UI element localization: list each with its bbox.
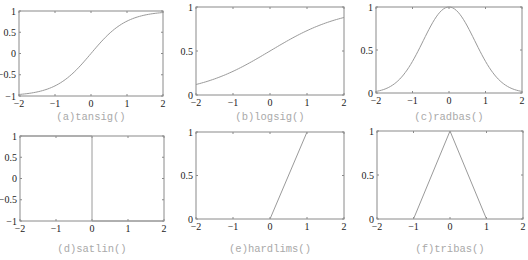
plot-area: −2−1012−1−0.500.51 bbox=[0, 130, 176, 260]
x-tick-label: 2 bbox=[520, 95, 525, 106]
caption-a: (a)tansig() bbox=[19, 111, 163, 123]
y-tick-label: 0.5 bbox=[5, 152, 18, 163]
y-tick-label: −0.5 bbox=[0, 194, 17, 205]
function-curve bbox=[196, 17, 344, 84]
function-curve bbox=[19, 13, 163, 95]
y-tick-label: 0.5 bbox=[181, 170, 194, 181]
function-curve bbox=[376, 7, 522, 91]
x-tick-label: 1 bbox=[126, 223, 131, 234]
x-tick-label: 0 bbox=[89, 98, 94, 109]
x-tick-label: 2 bbox=[342, 221, 347, 232]
y-tick-label: 0.5 bbox=[362, 170, 375, 181]
x-tick-label: 2 bbox=[521, 221, 526, 232]
y-tick-label: 0 bbox=[368, 88, 373, 99]
y-tick-label: 0 bbox=[369, 214, 374, 225]
x-tick-label: −1 bbox=[51, 223, 62, 234]
x-tick-label: 1 bbox=[483, 95, 488, 106]
y-tick-label: 1 bbox=[369, 126, 374, 137]
x-tick-label: 0 bbox=[448, 221, 453, 232]
y-tick-label: 0.5 bbox=[4, 27, 17, 38]
caption-b: (b)logsig() bbox=[196, 111, 344, 123]
function-curve bbox=[20, 136, 164, 221]
caption-d: (d)satlin() bbox=[20, 243, 164, 255]
subplot-d-satlin: −2−1012−1−0.500.51 (d)satlin() bbox=[0, 130, 176, 260]
x-tick-label: 1 bbox=[125, 98, 130, 109]
y-tick-label: 1 bbox=[188, 2, 193, 13]
subplot-f-tribas: −2−101200.51 (f)tribas() bbox=[352, 130, 528, 260]
axes-frame bbox=[196, 132, 344, 219]
function-curve bbox=[414, 131, 487, 219]
subplot-c-radbas: −2−101200.51 (c)radbas() bbox=[352, 0, 528, 130]
subplot-e-hardlims: −2−101200.51 (e)hardlims() bbox=[176, 130, 352, 260]
axes-frame bbox=[376, 7, 522, 93]
x-tick-label: 2 bbox=[161, 98, 166, 109]
y-tick-label: 1 bbox=[368, 2, 373, 13]
y-tick-label: 1 bbox=[11, 6, 16, 17]
caption-f: (f)tribas() bbox=[377, 243, 523, 255]
x-tick-label: 0 bbox=[268, 221, 273, 232]
y-tick-label: 0 bbox=[11, 48, 16, 59]
x-tick-label: −1 bbox=[50, 98, 61, 109]
x-tick-label: 2 bbox=[162, 223, 167, 234]
caption-c: (c)radbas() bbox=[376, 111, 522, 123]
y-tick-label: 1 bbox=[188, 127, 193, 138]
plot-area: −2−101200.51 bbox=[352, 130, 528, 260]
x-tick-label: 0 bbox=[268, 97, 273, 108]
x-tick-label: 2 bbox=[342, 97, 347, 108]
x-tick-label: 0 bbox=[447, 95, 452, 106]
axes-frame bbox=[377, 131, 523, 219]
x-tick-label: −1 bbox=[407, 95, 418, 106]
y-tick-label: −1 bbox=[6, 216, 17, 227]
y-tick-label: 0 bbox=[188, 90, 193, 101]
x-tick-label: −1 bbox=[228, 221, 239, 232]
x-tick-label: −1 bbox=[228, 97, 239, 108]
plot-area: −2−101200.51 bbox=[176, 130, 352, 260]
y-tick-label: 0 bbox=[188, 214, 193, 225]
x-tick-label: −1 bbox=[408, 221, 419, 232]
function-curve bbox=[270, 132, 307, 219]
x-tick-label: 1 bbox=[484, 221, 489, 232]
caption-e: (e)hardlims() bbox=[196, 243, 344, 255]
y-tick-label: −0.5 bbox=[0, 69, 16, 80]
y-tick-label: 1 bbox=[12, 131, 17, 142]
y-tick-label: 0.5 bbox=[361, 45, 374, 56]
x-tick-label: 0 bbox=[90, 223, 95, 234]
y-tick-label: −1 bbox=[5, 91, 16, 102]
subplot-a-tansig: −2−1012−1−0.500.51 (a)tansig() bbox=[0, 0, 176, 130]
x-tick-label: 1 bbox=[305, 221, 310, 232]
x-tick-label: 1 bbox=[305, 97, 310, 108]
y-tick-label: 0.5 bbox=[181, 46, 194, 57]
y-tick-label: 0 bbox=[12, 173, 17, 184]
subplot-b-logsig: −2−101200.51 (b)logsig() bbox=[176, 0, 352, 130]
